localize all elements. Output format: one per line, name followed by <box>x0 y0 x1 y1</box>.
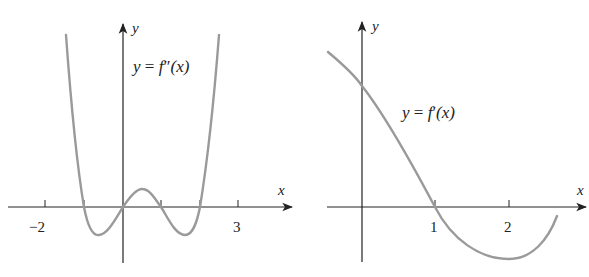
right-y-axis-label: y <box>370 18 379 34</box>
second-derivative-label: y = f″(x) <box>131 57 190 76</box>
left-x-axis-label: x <box>277 182 285 198</box>
right-panel: y x 1 2 y = f′(x) <box>327 18 586 262</box>
right-tick-label-1: 1 <box>430 219 438 235</box>
left-tick-label-3: 3 <box>233 219 241 235</box>
left-y-axis-label: y <box>130 20 139 36</box>
left-tick-label-neg2: −2 <box>29 219 45 235</box>
figure-canvas: y x −2 3 y = f″(x) y x 1 2 y = f′(x) <box>0 0 589 277</box>
left-x-ticks <box>45 200 238 207</box>
right-tick-label-2: 2 <box>504 219 512 235</box>
right-x-axis-label: x <box>576 182 584 198</box>
left-panel: y x −2 3 y = f″(x) <box>8 20 292 263</box>
first-derivative-label: y = f′(x) <box>400 103 455 122</box>
right-x-ticks <box>435 200 509 207</box>
